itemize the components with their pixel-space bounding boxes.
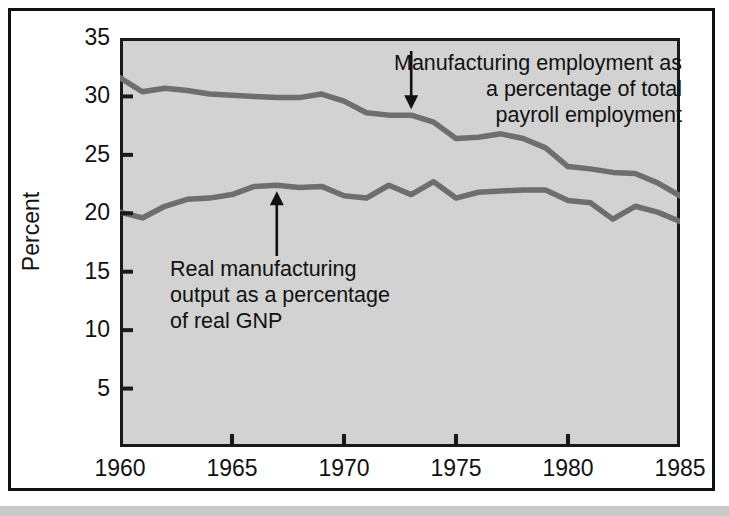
series-line-1	[120, 182, 680, 222]
y-axis-title: Percent	[18, 137, 45, 327]
x-tick-label-1985: 1985	[635, 455, 725, 482]
page-edge-strip	[0, 506, 729, 516]
y-tick-label-5: 5	[68, 377, 110, 400]
x-tick-label-1975: 1975	[411, 455, 501, 482]
y-tick-label-30: 30	[68, 84, 110, 107]
arrow-head-output	[270, 191, 284, 205]
annotation-output: Real manufacturing output as a percentag…	[170, 256, 420, 334]
y-tick-label-10: 10	[68, 318, 110, 341]
x-tick-label-1960: 1960	[75, 455, 165, 482]
plot-wrapper: 5101520253035 Percent 196019651970197519…	[0, 0, 729, 516]
annotation-employment: Manufacturing employment as a percentage…	[350, 50, 682, 128]
x-tick-label-1980: 1980	[523, 455, 613, 482]
y-tick-label-35: 35	[68, 26, 110, 49]
x-tick-label-1965: 1965	[187, 455, 277, 482]
y-tick-label-25: 25	[68, 143, 110, 166]
x-tick-label-1970: 1970	[299, 455, 389, 482]
y-tick-label-20: 20	[68, 201, 110, 224]
figure-container: 5101520253035 Percent 196019651970197519…	[0, 0, 729, 516]
y-tick-label-15: 15	[68, 260, 110, 283]
y-axis-tick-labels: 5101520253035	[62, 0, 110, 516]
